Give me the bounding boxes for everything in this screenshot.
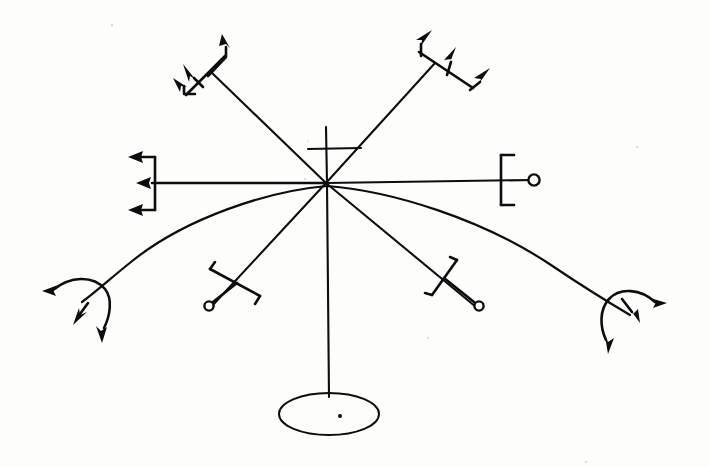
cross-circle-lower-left — [204, 262, 260, 311]
cross-circle-lower-right — [425, 257, 484, 311]
arrowhead-left-middle — [136, 177, 151, 189]
terminal-circle-lower-right — [474, 301, 483, 310]
arrowhead-ur-a — [416, 30, 432, 46]
ellipse-center-dot — [338, 414, 342, 418]
spoke-down-mast — [327, 183, 329, 397]
arrowhead-arc-left-a — [42, 285, 58, 296]
terminal-circle-right — [528, 174, 539, 185]
arrowhead-ul-b — [183, 64, 195, 82]
arrowhead-left-top — [128, 151, 143, 163]
arrowhead-left-bottom — [128, 204, 143, 216]
triple-arrow-cluster-upper-left — [173, 34, 230, 95]
radial-spoke-diagram — [0, 0, 710, 467]
arrowhead-arc-right-a — [650, 298, 667, 308]
arc-left-sweep — [82, 186, 327, 302]
arrowhead-arc-right-b — [605, 336, 614, 354]
arrowhead-arc-left-c — [73, 308, 87, 325]
arrowhead-arc-left-b — [96, 326, 107, 343]
terminal-circle-lower-left — [204, 301, 213, 310]
spoke-lower-left — [212, 183, 326, 306]
spoke-lower-right — [326, 183, 476, 307]
arc-right-sweep — [327, 186, 630, 315]
curved-double-arrow-right — [601, 291, 667, 354]
arrowhead-ur-b — [444, 47, 456, 65]
ground-ellipse — [279, 393, 379, 435]
spoke-upper-right — [326, 63, 435, 183]
arrowhead-ur-c — [474, 68, 490, 85]
spoke-upper-left — [211, 72, 326, 183]
diagram-canvas: Radial spoke diagram Hand-drawn radial d… — [0, 0, 710, 467]
triple-arrow-cluster-upper-right — [416, 30, 490, 90]
arrowhead-ul-a — [219, 34, 230, 48]
spoke-right-horizontal — [326, 180, 534, 183]
